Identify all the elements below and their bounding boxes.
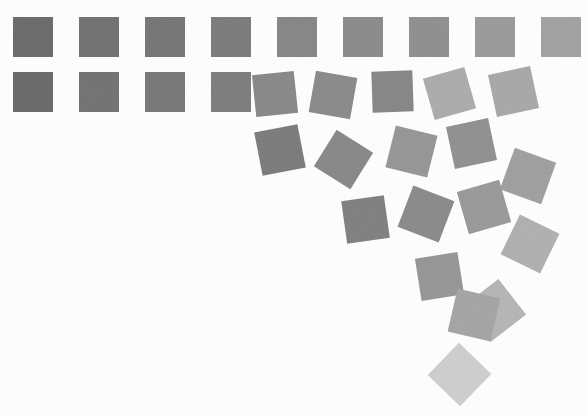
tile-grain xyxy=(398,186,455,243)
tile-grain xyxy=(145,72,185,112)
square-tile xyxy=(398,186,455,243)
tile-grain xyxy=(252,71,298,117)
tile-grain xyxy=(501,215,560,274)
tile-grain xyxy=(211,72,251,112)
square-tile xyxy=(252,71,298,117)
square-tile xyxy=(541,17,581,57)
square-tile xyxy=(428,343,492,407)
tile-grain xyxy=(446,118,497,169)
tile-grain xyxy=(211,17,251,57)
tile-grain xyxy=(488,66,539,117)
square-tile xyxy=(371,70,413,112)
tile-grain xyxy=(79,72,119,112)
square-tile xyxy=(145,72,185,112)
tile-grain xyxy=(409,17,449,57)
square-tile xyxy=(79,17,119,57)
tile-grain xyxy=(343,17,383,57)
tile-grain xyxy=(309,71,358,120)
square-tile xyxy=(254,124,306,176)
tile-grain xyxy=(314,130,373,189)
tile-grain xyxy=(277,17,317,57)
square-tile xyxy=(79,72,119,112)
square-tile xyxy=(423,67,476,120)
square-tile xyxy=(475,17,515,57)
square-tile xyxy=(385,125,437,177)
square-tile xyxy=(211,17,251,57)
tile-grain xyxy=(254,124,306,176)
square-tile xyxy=(341,195,390,244)
square-tile xyxy=(309,71,358,120)
square-tile xyxy=(446,118,497,169)
tile-grain xyxy=(79,17,119,57)
tile-grain xyxy=(13,72,53,112)
tile-grain xyxy=(423,67,476,120)
square-tile xyxy=(314,130,373,189)
tile-grain xyxy=(475,17,515,57)
tile-grain xyxy=(500,148,556,204)
square-tile xyxy=(488,66,539,117)
square-tile xyxy=(343,17,383,57)
tile-grain xyxy=(428,343,492,407)
square-tile xyxy=(501,215,560,274)
tile-grain xyxy=(341,195,390,244)
tile-grain xyxy=(371,70,413,112)
artboard xyxy=(0,0,587,417)
square-tile xyxy=(145,17,185,57)
tile-grain xyxy=(541,17,581,57)
tile-grain xyxy=(13,17,53,57)
square-tile xyxy=(500,148,556,204)
square-tile xyxy=(211,72,251,112)
square-tile xyxy=(13,72,53,112)
square-tile xyxy=(13,17,53,57)
tile-grain xyxy=(385,125,437,177)
tile-grain xyxy=(145,17,185,57)
square-tile xyxy=(277,17,317,57)
square-tile xyxy=(409,17,449,57)
